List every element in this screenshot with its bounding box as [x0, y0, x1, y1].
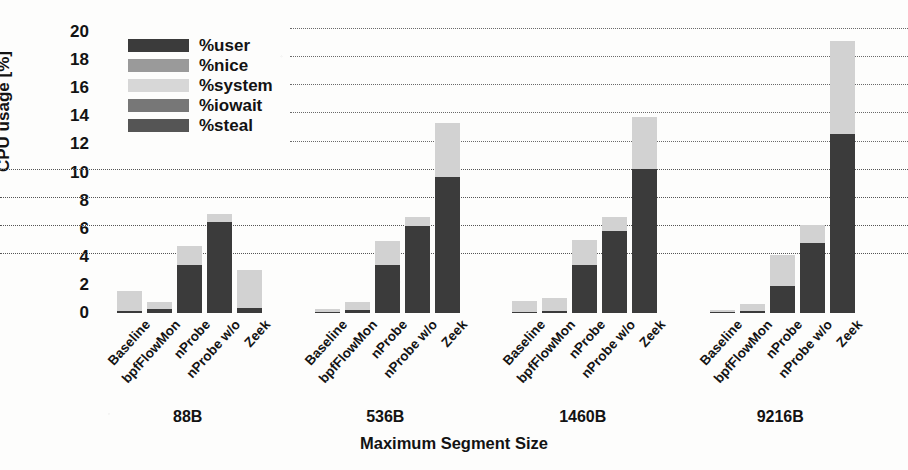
bar-segment-user — [177, 265, 202, 313]
bar-segment-user — [435, 177, 460, 313]
bar-segment-system — [405, 217, 430, 226]
x-tick-label: Zeek — [439, 317, 471, 350]
bar-88B-baseline — [117, 291, 142, 313]
bar-segment-user — [770, 286, 795, 313]
y-tick-label: 12 — [70, 134, 89, 154]
bar-1460B-nprobewo — [602, 217, 627, 313]
legend-label: %nice — [199, 57, 248, 74]
x-tick-label: Zeek — [241, 317, 273, 350]
bar-segment-system — [117, 291, 142, 311]
y-axis-title: CPU usage [%] — [0, 51, 14, 172]
cpu-usage-chart: 02468101214161820 CPU usage [%] %user%ni… — [0, 0, 908, 470]
bar-segment-user — [375, 265, 400, 313]
legend-swatch-icon — [128, 79, 189, 92]
bar-9216B-bpfflowmon — [740, 304, 765, 313]
bar-segment-user — [572, 265, 597, 313]
group-label: 1460B — [559, 408, 606, 426]
legend-swatch-icon — [128, 119, 189, 132]
bar-segment-user — [602, 231, 627, 313]
group-label: 536B — [366, 408, 404, 426]
y-tick-label: 20 — [70, 22, 89, 42]
bar-segment-system — [770, 255, 795, 286]
bar-88B-zeek — [237, 270, 262, 313]
legend-item: %steal — [128, 116, 273, 134]
bar-segment-system — [345, 302, 370, 310]
bar-segment-system — [315, 309, 340, 312]
x-axis-title: Maximum Segment Size — [0, 434, 908, 453]
bar-segment-system — [147, 302, 172, 309]
legend-item: %iowait — [128, 96, 273, 114]
bar-536B-zeek — [435, 123, 460, 313]
legend-label: %user — [199, 37, 250, 54]
chart-legend: %user%nice%system%iowait%steal — [128, 36, 273, 134]
x-tick-label: Zeek — [834, 317, 866, 350]
bar-segment-system — [632, 117, 657, 169]
bar-segment-system — [602, 217, 627, 230]
y-tick-label: 18 — [70, 50, 89, 70]
bar-88B-nprobe — [177, 246, 202, 313]
legend-label: %system — [199, 77, 273, 94]
bar-segment-system — [435, 123, 460, 177]
bar-536B-nprobewo — [405, 217, 430, 313]
legend-label: %steal — [199, 117, 253, 134]
bar-segment-user — [830, 134, 855, 313]
bar-segment-system — [177, 246, 202, 266]
y-tick-label: 0 — [79, 303, 89, 323]
legend-item: %nice — [128, 56, 273, 74]
legend-item: %system — [128, 76, 273, 94]
bar-segment-user — [405, 226, 430, 313]
x-axis-tick-labels: BaselinebpfFlowMonnProbenProbe w/oZeekBa… — [97, 313, 887, 408]
y-tick-label: 10 — [70, 163, 89, 183]
bar-9216B-nprobe — [770, 255, 795, 313]
y-tick-label: 6 — [79, 219, 89, 239]
bar-segment-system — [542, 298, 567, 311]
bar-1460B-bpfflowmon — [542, 298, 567, 313]
bar-9216B-zeek — [830, 41, 855, 313]
bar-segment-user — [800, 243, 825, 313]
bar-88B-bpfflowmon — [147, 302, 172, 313]
bar-1460B-baseline — [512, 301, 537, 313]
bar-segment-system — [512, 301, 537, 312]
bar-1460B-nprobe — [572, 240, 597, 313]
bar-segment-user — [632, 169, 657, 313]
bar-9216B-nprobewo — [800, 225, 825, 314]
bar-segment-system — [800, 225, 825, 244]
bar-segment-system — [207, 214, 232, 222]
bar-segment-system — [710, 310, 735, 312]
bar-segment-system — [375, 241, 400, 265]
y-tick-label: 4 — [79, 247, 89, 267]
legend-swatch-icon — [128, 59, 189, 72]
bar-segment-system — [237, 270, 262, 308]
legend-label: %iowait — [199, 97, 262, 114]
bar-536B-bpfflowmon — [345, 302, 370, 313]
y-axis-tick-labels: 02468101214161820 — [0, 0, 97, 313]
legend-swatch-icon — [128, 99, 189, 112]
legend-swatch-icon — [128, 39, 189, 52]
group-label: 88B — [173, 408, 202, 426]
group-label: 9216B — [757, 408, 804, 426]
x-tick-label: Zeek — [636, 317, 668, 350]
x-axis-group-labels: 88B536B1460B9216B — [97, 408, 887, 432]
bar-88B-nprobewo — [207, 214, 232, 313]
bar-536B-nprobe — [375, 241, 400, 313]
y-tick-label: 16 — [70, 78, 89, 98]
bar-segment-system — [740, 304, 765, 311]
bar-segment-system — [830, 41, 855, 134]
bar-segment-system — [572, 240, 597, 265]
y-tick-label: 8 — [79, 191, 89, 211]
gridline — [290, 28, 908, 29]
y-tick-label: 2 — [79, 275, 89, 295]
legend-item: %user — [128, 36, 273, 54]
bar-segment-user — [207, 222, 232, 313]
y-tick-label: 14 — [70, 106, 89, 126]
bar-1460B-zeek — [632, 117, 657, 313]
